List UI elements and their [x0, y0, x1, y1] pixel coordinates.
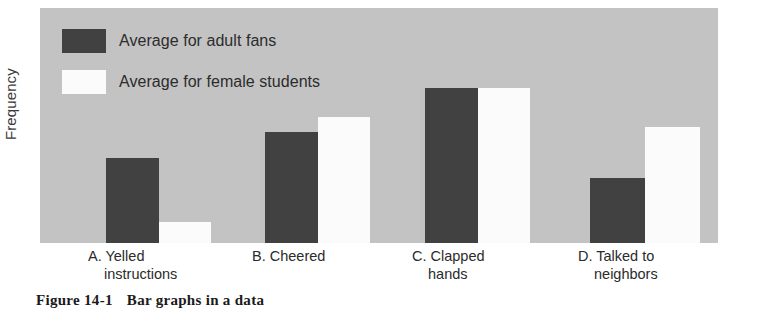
x-label-a-line1: A. Yelled — [88, 248, 144, 264]
bar-d-female-students — [645, 127, 700, 243]
bar-a-female-students — [159, 222, 211, 243]
bar-d-adult-fans — [590, 178, 645, 243]
x-axis-labels: A. Yelled instructions B. Cheered C. Cla… — [40, 247, 740, 292]
x-label-c: C. Clapped hands — [412, 247, 485, 283]
chart-plot-area: Average for adult fans Average for femal… — [40, 8, 718, 243]
figure-number: Figure 14-1 — [36, 292, 113, 308]
bar-a-adult-fans — [106, 158, 159, 243]
legend-item-female-students: Average for female students — [62, 70, 320, 94]
bar-b-adult-fans — [265, 132, 318, 243]
x-label-d: D. Talked to neighbors — [578, 247, 658, 283]
x-label-c-line1: C. Clapped — [412, 248, 485, 264]
legend-swatch-dark — [62, 29, 106, 53]
x-label-d-line1: D. Talked to — [578, 248, 654, 264]
legend-label-female-students: Average for female students — [119, 73, 320, 91]
figure-caption: Figure 14-1 Bar graphs in a data — [36, 292, 264, 309]
legend-item-adult-fans: Average for adult fans — [62, 29, 276, 53]
bar-b-female-students — [318, 117, 370, 243]
y-axis-label: Frequency — [2, 20, 22, 140]
legend-label-adult-fans: Average for adult fans — [119, 32, 276, 50]
legend-swatch-light — [62, 70, 106, 94]
figure-caption-text: Bar graphs in a data — [127, 292, 264, 308]
x-label-a-line2: instructions — [88, 265, 177, 283]
x-label-b-line1: B. Cheered — [252, 248, 325, 264]
x-label-b: B. Cheered — [252, 247, 325, 265]
bar-c-female-students — [478, 88, 530, 243]
bar-c-adult-fans — [425, 88, 478, 243]
x-label-a: A. Yelled instructions — [88, 247, 177, 283]
x-label-d-line2: neighbors — [578, 265, 658, 283]
x-label-c-line2: hands — [412, 265, 485, 283]
